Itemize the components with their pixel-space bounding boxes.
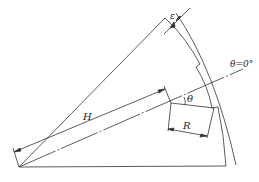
inner-step (196, 64, 200, 67)
r-left-ext (168, 103, 171, 131)
epsilon-label: ε (170, 12, 175, 21)
h-arrow-left (14, 148, 21, 152)
sector-drawing (0, 0, 259, 182)
r-right-ext (207, 108, 214, 138)
theta-arc (184, 97, 185, 105)
diagram-canvas: ε θ=0° θ H R (0, 0, 259, 182)
h-label: H (83, 112, 92, 122)
eps-arrow-1 (170, 22, 175, 28)
upper-boundary-line (19, 18, 165, 167)
theta-zero-line (19, 69, 243, 167)
r-arrow-right (200, 134, 207, 137)
outer-arc (176, 13, 236, 165)
r-arrow-left (168, 128, 174, 131)
r-label: R (183, 121, 191, 131)
theta-label: θ (187, 94, 193, 104)
h-ext-right (164, 86, 171, 103)
theta-zero-label: θ=0° (230, 60, 253, 69)
eps-arrow-2 (176, 16, 181, 21)
h-arrow-right (158, 89, 165, 93)
base-line (19, 166, 226, 167)
top-jog (165, 18, 168, 21)
inner-arc-lower (196, 67, 212, 108)
inner-arc-bottom (218, 107, 226, 166)
